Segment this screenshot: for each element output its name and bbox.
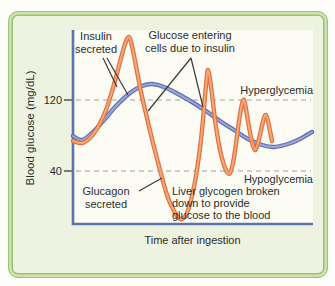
label-insulin-line1: Insulin [63,30,129,43]
label-glucagon-line2: secreted [70,198,142,211]
label-glucose-entering-line1: Glucose entering [131,29,249,42]
label-glucose-entering-line2: cells due to insulin [131,42,249,55]
label-liver-glycogen: Liver glycogen broken down to provide gl… [172,185,316,221]
y-axis-title: Blood glucose (mg/dL) [24,48,38,208]
label-glucose-entering-cells: Glucose entering cells due to insulin [131,29,249,54]
label-liver-line3: glucose to the blood [172,209,316,221]
label-hypoglycemia: Hypoglycemia [228,173,313,186]
label-liver-line1: Liver glycogen broken [172,185,316,197]
x-axis-title: Time after ingestion [115,234,270,247]
label-insulin-secreted: Insulin secreted [63,30,129,55]
label-hyperglycemia: Hyperglycemia [228,84,313,97]
label-glucagon-secreted: Glucagon secreted [70,185,142,210]
label-insulin-line2: secreted [63,43,129,56]
y-tick-label-120: 120 [34,94,62,107]
label-glucagon-line1: Glucagon [70,185,142,198]
y-tick-label-40: 40 [34,165,62,178]
figure-blood-glucose-diagram: Insulin secreted Glucose entering cells … [0,0,335,286]
label-liver-line2: down to provide [172,197,316,209]
